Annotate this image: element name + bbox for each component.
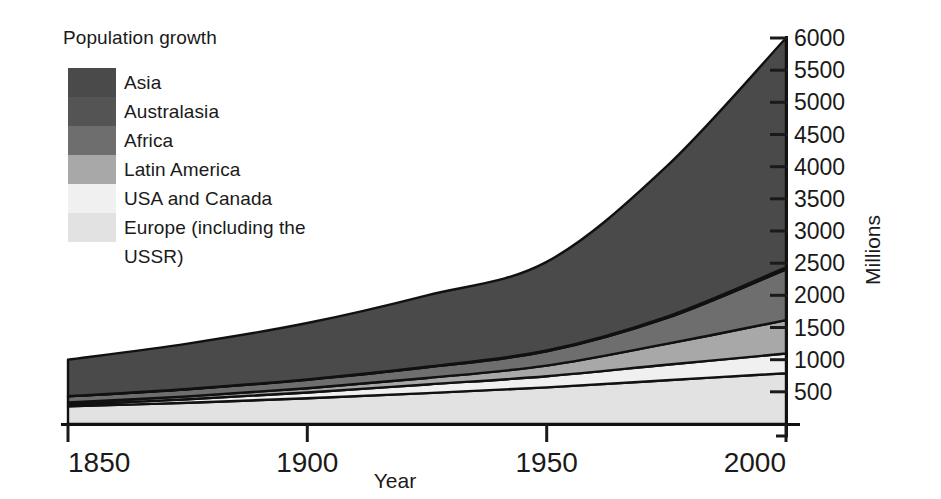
x-tick-label: 1900 [276, 447, 338, 478]
x-axis-title: Year [374, 469, 416, 492]
legend-label-6: Europe (including the [124, 217, 306, 238]
y-tick-label: 5000 [794, 89, 845, 115]
y-tick-label: 4500 [794, 122, 845, 148]
y-axis-title: Millions [861, 215, 884, 285]
legend-swatch-column [68, 68, 116, 242]
y-tick-label: 2000 [794, 282, 845, 308]
legend-label-4: Latin America [124, 159, 241, 180]
x-tick-label: 1950 [516, 447, 578, 478]
legend: Population growth AsiaAustralasiaAfricaL… [63, 27, 306, 267]
population-growth-chart-figure: 6000550050004500400035003000250020001500… [0, 0, 941, 499]
legend-label-5: USA and Canada [124, 188, 273, 209]
legend-swatch-africa [68, 126, 116, 156]
legend-label-1: Asia [124, 72, 162, 93]
y-axis-tick-labels: 6000550050004500400035003000250020001500… [794, 25, 845, 405]
y-tick-label: 5500 [794, 57, 845, 83]
y-tick-label: 500 [794, 379, 832, 405]
x-tick-label: 2000 [724, 447, 786, 478]
y-tick-label: 1000 [794, 347, 845, 373]
legend-swatch-latin-america [68, 155, 116, 185]
legend-label-2: Australasia [124, 101, 219, 122]
y-tick-label: 4000 [794, 154, 845, 180]
x-axis-ticks [68, 424, 786, 442]
legend-labels: AsiaAustralasiaAfricaLatin AmericaUSA an… [124, 72, 306, 267]
y-tick-label: 2500 [794, 250, 845, 276]
y-tick-label: 1500 [794, 315, 845, 341]
legend-label-3: Africa [124, 130, 173, 151]
y-tick-label: 3000 [794, 218, 845, 244]
legend-title: Population growth [63, 27, 217, 48]
legend-swatch-australasia [68, 97, 116, 127]
chart-canvas: 6000550050004500400035003000250020001500… [0, 0, 941, 499]
y-tick-label: 3500 [794, 186, 845, 212]
legend-swatch-europe-including-the [68, 213, 116, 242]
legend-label-7: USSR) [124, 246, 184, 267]
x-axis-tick-labels: 1850190019502000 [68, 447, 786, 478]
legend-swatch-usa-and-canada [68, 184, 116, 214]
y-tick-label: 6000 [794, 25, 845, 51]
legend-swatch-asia [68, 68, 116, 98]
x-tick-label: 1850 [68, 447, 130, 478]
